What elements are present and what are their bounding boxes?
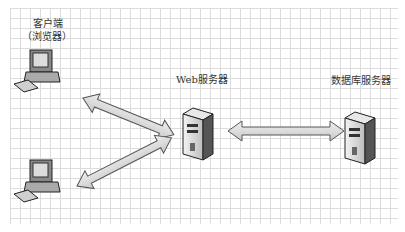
arrow-client1-web bbox=[79, 89, 177, 144]
server-tower-icon bbox=[345, 112, 375, 164]
desktop-computer-icon bbox=[14, 50, 60, 92]
server-tower-icon bbox=[183, 108, 213, 160]
arrow-web-db bbox=[228, 121, 344, 141]
arrow-client2-web bbox=[72, 129, 176, 195]
diagram-canvas: 客户端 （浏览器） Web服务器 数据库服务器 bbox=[0, 0, 405, 232]
desktop-computer-icon bbox=[14, 160, 60, 202]
